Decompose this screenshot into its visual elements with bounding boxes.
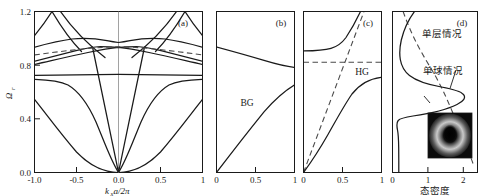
- panel-a-xlabel-rest: a/2π: [114, 186, 131, 196]
- panel-a-xtick-2: 0.0: [113, 175, 125, 185]
- asymptote-diagonal-dashed: [304, 12, 365, 173]
- panel-c-xtick-1: 0.5: [337, 175, 349, 185]
- single-sphere-leader-line: [424, 96, 430, 103]
- panel-a-ytick-2: 0.8: [20, 61, 32, 71]
- four-panel-figure: (a) 1.2 0.8 0.4 0.0 Ω r -1.0 -0.5 0.0 0.…: [0, 0, 483, 196]
- monolayer-label: 单层情况: [422, 28, 462, 39]
- panel-a-xtick-3: 0.5: [155, 175, 167, 185]
- panel-b-xtick-0: 0: [214, 175, 219, 185]
- panel-d-xtick-0: 0: [390, 175, 395, 185]
- panel-d-xtick-2: 2: [461, 175, 466, 185]
- panel-c-gap-label: HG: [355, 67, 369, 77]
- panel-c-xtick-2: 1: [380, 175, 385, 185]
- panel-c-curves: [304, 12, 382, 173]
- panel-b-xtick-1: 0.5: [250, 175, 262, 185]
- band-curve: [35, 12, 53, 36]
- panel-b-frame: [217, 12, 295, 173]
- panel-d-xtick-1: 1: [426, 175, 431, 185]
- panel-b-bands: [217, 47, 295, 173]
- band-curve: [304, 77, 382, 172]
- panel-a-label: (a): [178, 18, 188, 28]
- panel-c: HG (c): [304, 12, 382, 173]
- panel-d-xlabel: 态密度: [420, 185, 450, 196]
- panel-b-label: (b): [276, 18, 287, 28]
- panel-c-x-ticks: [304, 167, 382, 173]
- panel-b: BG (b): [217, 12, 295, 173]
- panel-d-label: (d): [457, 18, 468, 28]
- panel-d-x-ticks: [393, 167, 464, 173]
- panel-c-xtick-0: 0: [301, 175, 306, 185]
- field-distribution-inset: [428, 113, 472, 158]
- panel-c-frame: [304, 12, 382, 173]
- panel-a-xtick-1: -0.5: [69, 175, 84, 185]
- panel-a-ylabel-sub: r: [9, 87, 16, 90]
- panel-a-y-ticks: [35, 12, 41, 173]
- inset-field-core: [443, 125, 458, 144]
- figure-container: (a) 1.2 0.8 0.4 0.0 Ω r -1.0 -0.5 0.0 0.…: [0, 0, 483, 196]
- panel-b-gap-label: BG: [240, 98, 253, 108]
- panel-a-xtick-0: -1.0: [27, 175, 42, 185]
- band-curve: [217, 47, 295, 67]
- panel-a-ytick-1: 0.4: [20, 114, 32, 124]
- panel-b-x-ticks: [217, 167, 295, 173]
- single-sphere-label: 单球情况: [423, 65, 463, 76]
- panel-d: 单层情况 单球情况 (d): [393, 12, 478, 173]
- panel-a-xlabel-group: k x a/2π: [105, 186, 130, 196]
- panel-a-ylabel: Ω: [4, 92, 14, 99]
- panel-c-label: (c): [363, 18, 373, 28]
- panel-a-ytick-3: 1.2: [20, 7, 31, 17]
- panel-a-xtick-4: 1: [201, 175, 206, 185]
- panel-a: (a): [35, 12, 203, 173]
- panel-a-ylabel-group: Ω r: [4, 87, 16, 99]
- panel-a-xlabel-main: k: [105, 186, 110, 196]
- band-curve: [217, 85, 295, 173]
- panel-b-xtick-2: 1: [293, 175, 298, 185]
